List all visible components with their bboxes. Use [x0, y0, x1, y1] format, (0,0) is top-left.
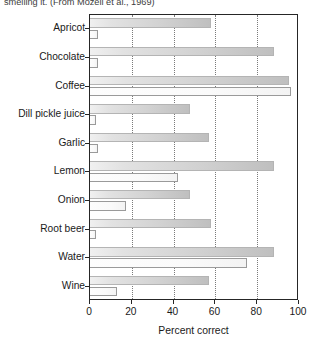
y-axis-category-labels: ApricotChocolateCoffeeDill pickle juiceG… [0, 14, 85, 300]
y-axis-label-water: Water [1, 251, 85, 263]
bar-group [90, 187, 297, 216]
y-axis-label-root-beer: Root beer [1, 223, 85, 235]
bar-group [90, 272, 297, 300]
bar-group [90, 158, 297, 187]
bar-smelling [90, 190, 190, 200]
y-axis-label-apricot: Apricot [1, 22, 85, 34]
y-tick-mark [85, 86, 89, 87]
y-tick-mark [85, 57, 89, 58]
y-tick-mark [85, 286, 89, 287]
bar-group [90, 244, 297, 273]
bar-smelling [90, 104, 190, 114]
x-tick-mark [214, 300, 215, 304]
bar-smelling [90, 219, 211, 229]
x-tick-mark [131, 300, 132, 304]
x-tick-label: 20 [111, 305, 151, 318]
y-tick-mark [85, 200, 89, 201]
bar-tasting [90, 58, 98, 68]
y-axis-label-onion: Onion [1, 194, 85, 206]
bar-smelling [90, 18, 211, 28]
bar-tasting [90, 287, 117, 297]
bar-group [90, 15, 297, 44]
bar-smelling [90, 247, 274, 257]
bar-tasting [90, 173, 178, 183]
y-axis-label-wine: Wine [1, 280, 85, 292]
bar-smelling [90, 133, 209, 143]
x-tick-mark [256, 300, 257, 304]
y-tick-mark [85, 171, 89, 172]
x-tick-mark [298, 300, 299, 304]
bar-group [90, 129, 297, 158]
x-tick-label: 0 [69, 305, 109, 318]
bar-tasting [90, 258, 247, 268]
y-axis-label-dill-pickle-juice: Dill pickle juice [1, 108, 85, 120]
x-tick-label: 60 [194, 305, 234, 318]
bar-smelling [90, 47, 274, 57]
plot-area [89, 14, 298, 300]
bar-smelling [90, 161, 274, 171]
x-tick-label: 80 [236, 305, 276, 318]
bar-tasting [90, 230, 96, 240]
bar-smelling [90, 76, 289, 86]
bar-tasting [90, 87, 291, 97]
y-tick-mark [85, 257, 89, 258]
y-tick-mark [85, 28, 89, 29]
y-axis-label-chocolate: Chocolate [1, 51, 85, 63]
bar-group [90, 72, 297, 101]
x-tick-mark [173, 300, 174, 304]
bar-tasting [90, 201, 126, 211]
bar-smelling [90, 276, 209, 286]
bar-chart-figure: ApricotChocolateCoffeeDill pickle juiceG… [0, 0, 316, 353]
x-tick-mark [89, 300, 90, 304]
y-tick-mark [85, 229, 89, 230]
y-axis-label-garlic: Garlic [1, 137, 85, 149]
y-tick-mark [85, 143, 89, 144]
bar-tasting [90, 144, 98, 154]
x-axis-title: Percent correct [89, 324, 298, 337]
y-tick-mark [85, 114, 89, 115]
bar-group [90, 215, 297, 244]
y-axis-label-lemon: Lemon [1, 165, 85, 177]
y-axis-label-coffee: Coffee [1, 80, 85, 92]
x-tick-label: 40 [153, 305, 193, 318]
x-tick-label: 100 [278, 305, 316, 318]
bar-tasting [90, 115, 96, 125]
bar-group [90, 44, 297, 73]
bar-tasting [90, 30, 98, 40]
bar-group [90, 101, 297, 130]
